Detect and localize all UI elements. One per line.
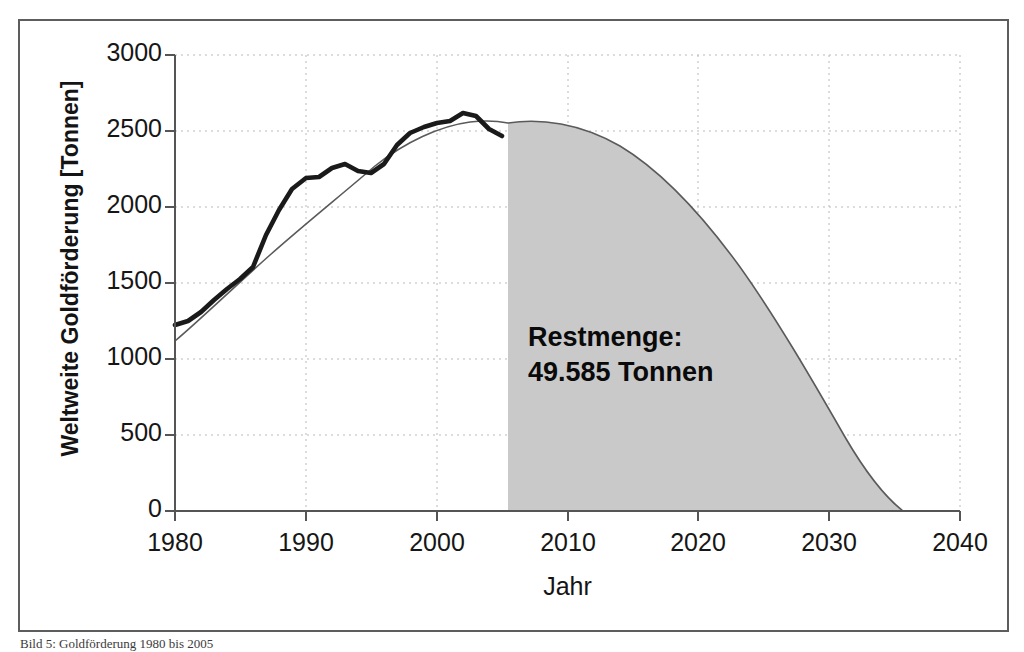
figure-caption: Bild 5: Goldförderung 1980 bis 2005 bbox=[20, 636, 213, 652]
restmenge-annotation: Restmenge: 49.585 Tonnen bbox=[528, 320, 714, 389]
y-tick-label-3000: 3000 bbox=[72, 40, 162, 65]
y-axis-ticks bbox=[165, 55, 175, 511]
y-tick-label-1000: 1000 bbox=[72, 344, 162, 369]
annotation-line-1: Restmenge: bbox=[528, 320, 714, 355]
gold-production-line bbox=[175, 113, 502, 325]
y-tick-label-2000: 2000 bbox=[72, 192, 162, 217]
y-tick-label-0: 0 bbox=[72, 496, 162, 521]
y-tick-label-1500: 1500 bbox=[72, 268, 162, 293]
x-tick-label-2020: 2020 bbox=[638, 528, 758, 557]
y-axis-title: Weltweite Goldförderung [Tonnen] bbox=[57, 19, 84, 519]
x-tick-label-2030: 2030 bbox=[769, 528, 889, 557]
x-tick-label-2010: 2010 bbox=[508, 528, 628, 557]
x-tick-label-2000: 2000 bbox=[377, 528, 497, 557]
shaded-region-restmenge bbox=[508, 121, 903, 511]
y-tick-label-2500: 2500 bbox=[72, 116, 162, 141]
y-tick-label-500: 500 bbox=[72, 420, 162, 445]
x-tick-label-2040: 2040 bbox=[900, 528, 1020, 557]
x-tick-label-1990: 1990 bbox=[246, 528, 366, 557]
x-axis-ticks bbox=[175, 511, 960, 521]
annotation-line-2: 49.585 Tonnen bbox=[528, 355, 714, 390]
x-axis-title: Jahr bbox=[175, 572, 960, 601]
x-tick-label-1980: 1980 bbox=[115, 528, 235, 557]
